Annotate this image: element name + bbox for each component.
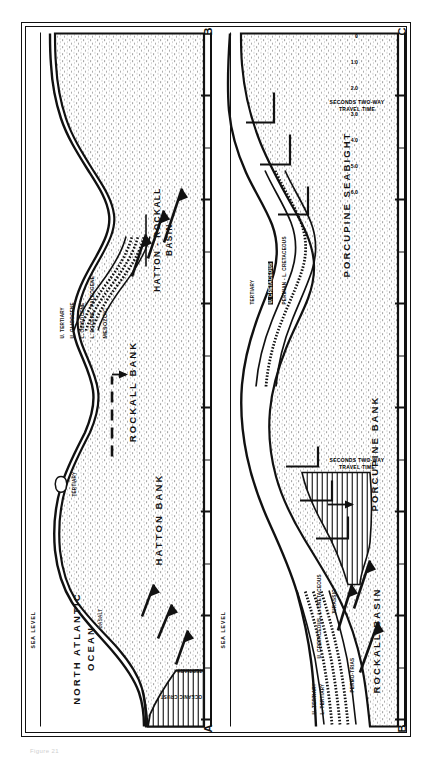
axis-title-line1: SECONDS TWO-WAY bbox=[322, 457, 392, 464]
unit-label-tertiary-right: TERTIARY bbox=[72, 471, 77, 496]
axis-title-line2: TRAVEL TIME bbox=[322, 106, 392, 113]
axis-tick-labels-a-b: 0 1.0 2.0 3.0 4.0 5.0 6.0 bbox=[346, 33, 404, 363]
axis-tick-1: 1.0 bbox=[351, 59, 358, 65]
province-north-atlantic-ocean: NORTH ATLANTIC OCEAN bbox=[70, 588, 99, 708]
sea-level-line-b-c bbox=[230, 32, 231, 726]
unit-label-permian-lower-cretaceous: PERMIAN - L. CRETACEOUS bbox=[282, 236, 287, 304]
province-label-line1: HATTON - ROCKALL bbox=[153, 187, 162, 292]
province-label-line1: NORTH ATLANTIC bbox=[71, 592, 82, 704]
axis-tick-2: 2.0 bbox=[351, 85, 358, 91]
unit-label-upper-oligocene: U. OLIGOCENE bbox=[70, 302, 75, 338]
unit-label-lower-tertiary-bc: L. TERTIARY bbox=[320, 683, 325, 714]
province-label-line1: PORCUPINE bbox=[369, 436, 380, 511]
sea-level-label-b-c: SEA LEVEL bbox=[220, 611, 226, 649]
unit-label-tertiary-seabight: TERTIARY bbox=[250, 279, 255, 304]
province-label-line1: HATTON bbox=[153, 514, 164, 565]
section-mark-a: A bbox=[203, 724, 214, 732]
province-label-line1: ROCKALL bbox=[127, 381, 138, 442]
sea-level-line-a-b bbox=[40, 32, 41, 726]
unit-label-basalt: BASALT bbox=[98, 608, 103, 628]
axis-line-b-c bbox=[404, 32, 406, 726]
axis-tick-0: 0 bbox=[355, 33, 358, 39]
province-label-line1: ROCKALL bbox=[371, 632, 382, 693]
section-mark-b-start: B bbox=[397, 724, 407, 732]
unit-label-upper-cretaceous-seabight: U. CRETACEOUS bbox=[268, 261, 273, 304]
figure-caption: Figure 21 bbox=[30, 748, 350, 754]
axis-title-line2: TRAVEL TIME bbox=[322, 464, 392, 471]
province-label-line2: BASIN bbox=[165, 223, 174, 256]
unit-label-mesozoic: MESOZOIC bbox=[102, 307, 108, 338]
unit-label-upper-cretaceous-bc: U. CRETACEOUS bbox=[317, 617, 322, 658]
geology-linework-a-b bbox=[26, 26, 212, 733]
axis-tick-5: 5.0 bbox=[351, 163, 358, 169]
province-label-line2: OCEAN bbox=[85, 626, 96, 671]
figure-page: SEA LEVEL NORTH ATLANTIC OCEAN HATTON BA… bbox=[0, 0, 432, 777]
unit-label-tertiary-left: TERTIARY bbox=[177, 667, 202, 672]
unit-label-upper-tertiary-bc: U. TERTIARY bbox=[312, 683, 317, 714]
unit-label-permo-trias-bc: PERMO-TRIAS bbox=[350, 657, 355, 692]
province-hatton-rockall-basin: HATTON - ROCKALL BASIN bbox=[152, 164, 177, 314]
unit-label-upper-tertiary: U. TERTIARY bbox=[60, 307, 65, 338]
province-rockall-basin: ROCKALL BASIN bbox=[370, 570, 384, 710]
unit-label-oceanic-crust: OCEANIC CRUST bbox=[160, 693, 202, 698]
province-label-line2: BANK bbox=[153, 473, 164, 509]
province-label-line2: BANK bbox=[127, 340, 138, 376]
province-porcupine-bank: PORCUPINE BANK bbox=[368, 368, 382, 538]
unit-label-lower-eocene-paleogene: L. EOCENE - PALEOGENE bbox=[90, 275, 95, 338]
province-hatton-bank: HATTON BANK bbox=[152, 454, 166, 584]
unit-label-lower-oligocene: L. OLIGOCENE bbox=[80, 302, 85, 338]
unit-label-jurassic-bc: JURASSIC bbox=[332, 589, 337, 614]
figure-frame: SEA LEVEL NORTH ATLANTIC OCEAN HATTON BA… bbox=[21, 22, 411, 737]
province-label-line2: BASIN bbox=[371, 587, 382, 627]
unit-label-lower-cretaceous-bc: L. CRETACEOUS bbox=[317, 574, 322, 614]
axis-title-a-b: SECONDS TWO-WAY TRAVEL TIME bbox=[322, 99, 392, 113]
province-label-line2: BANK bbox=[369, 395, 380, 431]
cross-section-panel-a-b: SEA LEVEL NORTH ATLANTIC OCEAN HATTON BA… bbox=[26, 26, 212, 733]
axis-tick-6: 6.0 bbox=[351, 189, 358, 195]
axis-tick-4: 4.0 bbox=[351, 137, 358, 143]
province-rockall-bank: ROCKALL BANK bbox=[126, 316, 140, 466]
axis-title-b-c: SECONDS TWO-WAY TRAVEL TIME bbox=[322, 457, 392, 471]
figure-inner-border: SEA LEVEL NORTH ATLANTIC OCEAN HATTON BA… bbox=[25, 26, 407, 733]
section-mark-b: B bbox=[203, 27, 214, 35]
axis-title-line1: SECONDS TWO-WAY bbox=[322, 99, 392, 106]
axis-line-a-b bbox=[210, 32, 212, 726]
sea-level-label-a-b: SEA LEVEL bbox=[30, 611, 36, 649]
